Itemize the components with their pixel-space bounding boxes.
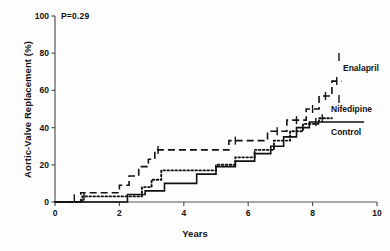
y-axis-title: Aortic-Valve Replacement (%) (22, 25, 33, 195)
x-axis-tick-label: 8 (310, 208, 315, 218)
x-axis-tick-label: 2 (117, 208, 122, 218)
series-label-enalapril: Enalapril (343, 63, 379, 73)
series-line-control (55, 122, 364, 202)
y-axis-tick-label: 100 (35, 11, 49, 21)
x-axis-tick-label: 10 (372, 208, 382, 218)
chart-plot-area: 0204060801000246810 (0, 0, 390, 251)
x-axis-tick-label: 0 (53, 208, 58, 218)
y-axis-tick-label: 20 (40, 160, 50, 170)
y-axis-tick-label: 60 (40, 85, 50, 95)
figure-container: 0204060801000246810 Aortic-Valve Replace… (0, 0, 390, 251)
series-label-nifedipine: Nifedipine (331, 104, 372, 114)
series-line-enalapril (55, 81, 342, 202)
series-label-control: Control (331, 127, 361, 137)
y-axis-tick-label: 0 (44, 197, 49, 207)
x-axis-title: Years (0, 228, 390, 239)
x-axis-tick-label: 6 (246, 208, 251, 218)
p-value-annotation: P=0.29 (61, 11, 89, 21)
y-axis-tick-label: 40 (40, 123, 50, 133)
y-axis-tick-label: 80 (40, 48, 50, 58)
series-line-nifedipine (55, 118, 332, 202)
x-axis-tick-label: 4 (181, 208, 186, 218)
